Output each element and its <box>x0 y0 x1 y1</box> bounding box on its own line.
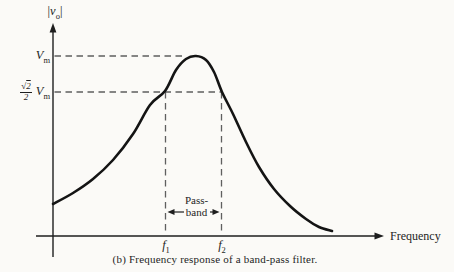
sqrt2-over-2-fraction: √22 <box>20 82 31 102</box>
fraction-denominator: 2 <box>24 93 29 102</box>
abs-bar-right: | <box>60 4 63 18</box>
y-axis-arrowhead <box>50 23 57 33</box>
vm-subscript: m <box>43 55 50 65</box>
band-pass-response-figure: |vo| Vm √22 Vm f1 f2 Pass- band Frequenc… <box>0 0 454 272</box>
half-vm-symbol: Vm <box>36 84 50 101</box>
x-axis-label: Frequency <box>390 229 441 244</box>
half-vm-subscript: m <box>43 90 50 100</box>
figure-caption: (b) Frequency response of a band-pass fi… <box>0 253 430 265</box>
passband-label: Pass- band <box>170 195 223 218</box>
half-vm-tick-label: √22 Vm <box>0 80 50 104</box>
radicand: 2 <box>26 81 31 91</box>
vm-tick-label: Vm <box>6 48 50 65</box>
passband-line2: band <box>170 207 223 219</box>
plot-canvas <box>0 0 454 272</box>
passband-line1: Pass- <box>170 195 223 207</box>
x-axis-arrowhead <box>375 233 385 240</box>
y-axis-label: |vo| <box>38 4 72 21</box>
fraction-numerator: √2 <box>20 82 31 92</box>
